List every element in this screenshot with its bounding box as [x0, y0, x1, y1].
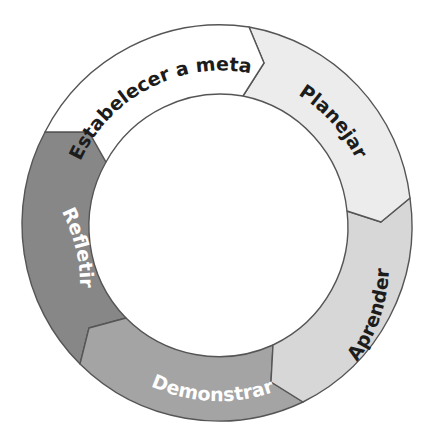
- segment-planejar: [243, 27, 410, 222]
- segment-aprender: [271, 198, 412, 402]
- segment-demonstrar: [80, 318, 303, 421]
- cycle-diagram: Estabelecer a meta Planejar Aprender Dem…: [0, 0, 432, 438]
